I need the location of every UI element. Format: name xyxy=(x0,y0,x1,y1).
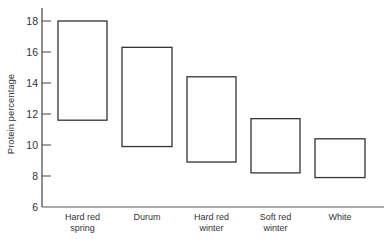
y-tick-label: 12 xyxy=(26,108,38,120)
range-box-soft-red-winter xyxy=(251,119,300,173)
category-label: spring xyxy=(70,223,95,233)
range-box-durum xyxy=(122,47,172,146)
y-tick-label: 10 xyxy=(26,139,38,151)
category-label: White xyxy=(328,212,351,222)
range-box-hard-red-spring xyxy=(58,21,107,120)
y-tick-label: 14 xyxy=(26,77,38,89)
category-label: Hard red xyxy=(194,212,229,222)
category-label: winter xyxy=(198,223,223,233)
category-label: Durum xyxy=(133,212,160,222)
range-box-hard-red-winter xyxy=(187,77,236,162)
y-tick-label: 18 xyxy=(26,15,38,27)
category-label: Hard red xyxy=(65,212,100,222)
y-tick-label: 6 xyxy=(32,201,38,213)
y-tick-label: 8 xyxy=(32,170,38,182)
category-label: winter xyxy=(262,223,287,233)
y-axis-label: Protein percentage xyxy=(5,74,16,154)
range-box-white xyxy=(315,139,365,178)
protein-range-chart: 681012141618Protein percentageHard redsp… xyxy=(0,0,388,244)
y-tick-label: 16 xyxy=(26,46,38,58)
category-label: Soft red xyxy=(260,212,292,222)
